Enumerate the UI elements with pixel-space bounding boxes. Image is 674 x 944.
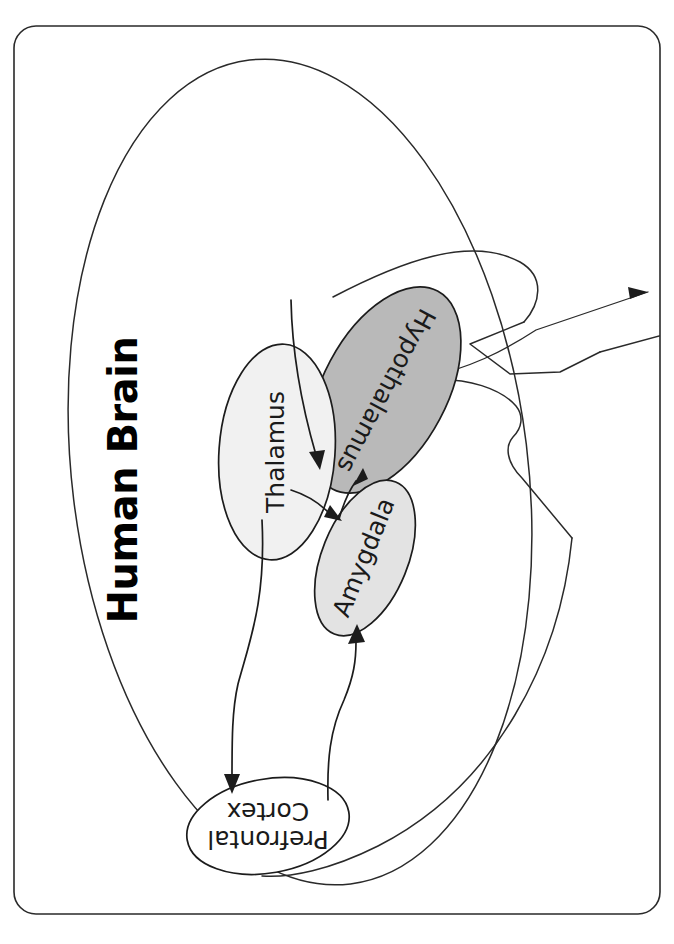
brain-diagram-figure: Hypothalamus Thalamus Amygdala Prefronta… [0, 0, 674, 944]
figure-title: Human Brain [100, 337, 146, 624]
prefrontal-cortex-label-line1: Prefrontal [207, 825, 328, 854]
thalamus-label: Thalamus [261, 391, 290, 514]
page-canvas: Hypothalamus Thalamus Amygdala Prefronta… [0, 0, 674, 944]
prefrontal-cortex-label-line2: Cortex [227, 797, 310, 826]
